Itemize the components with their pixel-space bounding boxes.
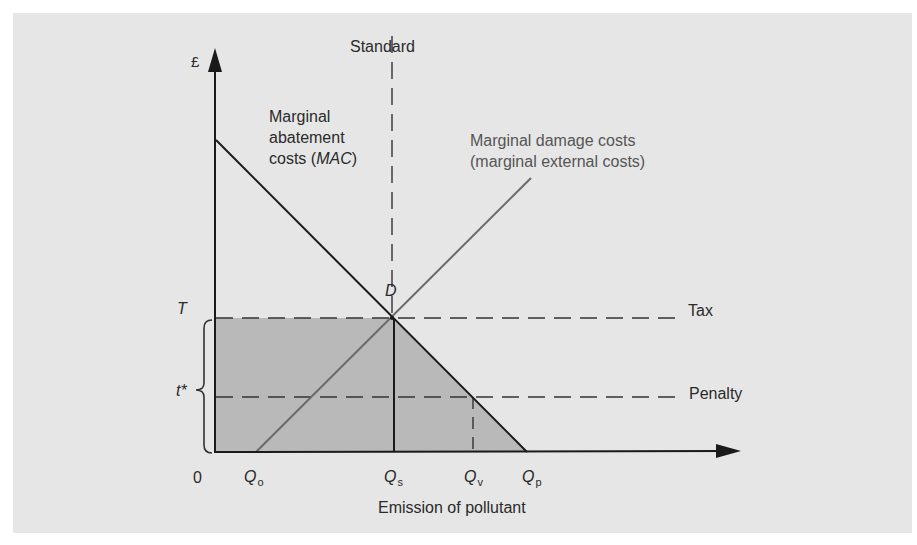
x-tick-qs: Qs	[384, 467, 403, 488]
x-axis-arrow-icon	[716, 444, 741, 458]
mac-label-line1: Marginal	[269, 106, 357, 127]
y-axis-arrow-icon	[208, 48, 222, 72]
diagram-canvas	[0, 0, 917, 545]
T-label: T	[177, 299, 187, 318]
mdc-label-line1: Marginal damage costs	[470, 130, 645, 151]
y-axis-label: £	[191, 52, 199, 71]
penalty-label: Penalty	[689, 384, 742, 403]
x-axis-label: Emission of pollutant	[378, 498, 526, 517]
point-d-label: D	[385, 281, 397, 300]
origin-label: 0	[193, 468, 202, 487]
point-d-marker	[390, 316, 394, 320]
tstar-label: t*	[176, 381, 187, 400]
x-tick-qp: Qp	[522, 467, 542, 488]
mac-label-line3: costs (MAC)	[269, 148, 357, 169]
standard-label: Standard	[350, 37, 415, 56]
x-axis	[214, 451, 728, 452]
x-tick-qv: Qv	[464, 467, 483, 488]
tstar-brace-icon	[196, 320, 212, 453]
x-tick-qo: Qo	[244, 467, 264, 488]
mdc-label-line2: (marginal external costs)	[470, 151, 645, 172]
mac-label-line2: abatement	[269, 127, 357, 148]
mdc-label: Marginal damage costs (marginal external…	[470, 130, 645, 172]
mac-label: Marginal abatement costs (MAC)	[269, 106, 357, 169]
tax-label: Tax	[688, 301, 713, 320]
